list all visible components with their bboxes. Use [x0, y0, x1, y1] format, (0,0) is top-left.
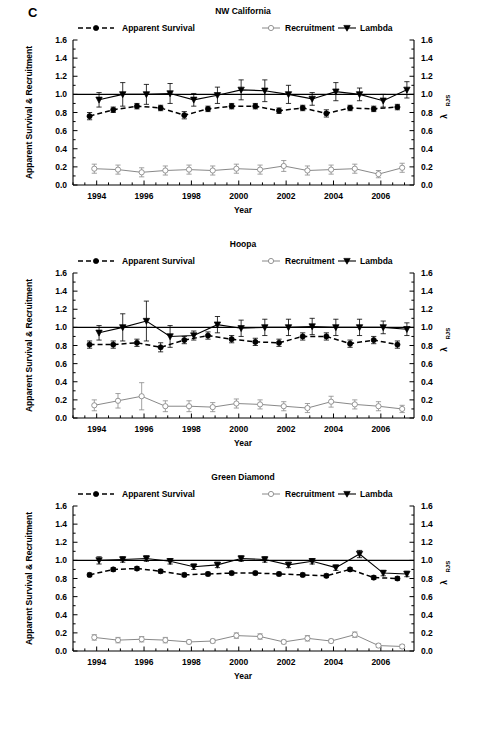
data-point — [182, 337, 187, 342]
x-tick-label: 2000 — [229, 424, 248, 434]
y-tick-label-left: 0.4 — [55, 610, 67, 620]
data-point — [87, 572, 92, 577]
y-tick-label-right: 0.8 — [421, 574, 433, 584]
data-point — [400, 406, 405, 411]
y-tick-label-left: 0.0 — [55, 413, 67, 423]
lambda-symbol: λ — [439, 347, 449, 352]
data-point — [300, 572, 305, 577]
data-point — [139, 170, 144, 175]
x-tick-label: 1998 — [182, 191, 201, 201]
data-point — [92, 403, 97, 408]
x-axis-title: Year — [234, 671, 253, 681]
y-tick-label-left: 1.4 — [55, 519, 67, 529]
data-point — [87, 342, 92, 347]
data-point — [186, 404, 191, 409]
y-tick-label-left: 0.8 — [55, 341, 67, 351]
y-tick-label-right: 1.4 — [421, 519, 433, 529]
data-point — [352, 166, 357, 171]
y-axis-title-left: Apparent Survival & Recruitment — [24, 279, 34, 412]
legend-label: Apparent Survival — [122, 23, 195, 33]
x-tick-label: 1996 — [135, 424, 154, 434]
x-tick-label: 2002 — [277, 191, 296, 201]
legend-label: Lambda — [360, 256, 393, 266]
data-point — [134, 566, 139, 571]
legend-item-filled-circle: Apparent Survival — [78, 23, 195, 33]
x-tick-label: 2004 — [324, 657, 343, 667]
data-point — [182, 113, 187, 118]
filled-circle-icon — [93, 25, 98, 30]
x-tick-label: 2002 — [277, 424, 296, 434]
data-point — [376, 404, 381, 409]
y-tick-label-left: 0.2 — [55, 628, 67, 638]
legend-item-filled-triangle-down: Lambda — [338, 489, 393, 499]
open-circle-icon — [268, 25, 273, 30]
y-tick-label-right: 1.2 — [421, 304, 433, 314]
data-point — [205, 571, 210, 576]
axes: 0.00.00.20.20.40.40.60.60.80.81.01.01.21… — [24, 268, 451, 448]
y-tick-label-left: 0.6 — [55, 359, 67, 369]
data-point — [281, 163, 286, 168]
series-lambda — [96, 80, 410, 107]
data-point — [115, 167, 120, 172]
y-tick-label-left: 1.6 — [55, 35, 67, 45]
open-circle-icon — [268, 491, 273, 496]
data-point — [352, 402, 357, 407]
data-point — [96, 97, 102, 103]
lambda-subscript: RJS — [445, 328, 451, 340]
data-point — [139, 394, 144, 399]
data-point — [158, 569, 163, 574]
data-point — [253, 339, 258, 344]
data-point — [139, 637, 144, 642]
data-point — [191, 97, 197, 103]
data-point — [300, 334, 305, 339]
data-point — [205, 333, 210, 338]
legend-item-filled-triangle-down: Lambda — [338, 256, 393, 266]
y-tick-label-right: 0.8 — [421, 341, 433, 351]
data-point — [229, 570, 234, 575]
data-point — [134, 104, 139, 109]
y-tick-label-left: 0.0 — [55, 646, 67, 656]
data-point — [92, 166, 97, 171]
y-tick-label-right: 0.0 — [421, 646, 433, 656]
legend-label: Recruitment — [285, 489, 335, 499]
series-recruitment — [92, 383, 405, 413]
y-axis-title-right: λRJS — [439, 95, 451, 119]
data-point — [276, 108, 281, 113]
y-tick-label-right: 0.4 — [421, 144, 433, 154]
panel-title: Green Diamond — [211, 472, 274, 482]
y-tick-label-right: 0.4 — [421, 377, 433, 387]
x-tick-label: 1996 — [135, 191, 154, 201]
data-point — [158, 105, 163, 110]
legend-label: Lambda — [360, 489, 393, 499]
legend-item-filled-triangle-down: Lambda — [338, 23, 393, 33]
data-point — [329, 638, 334, 643]
y-tick-label-left: 1.6 — [55, 501, 67, 511]
figure-container: NW CaliforniaCApparent SurvivalRecruitme… — [0, 0, 477, 734]
y-tick-label-right: 1.2 — [421, 537, 433, 547]
x-tick-label: 2004 — [324, 424, 343, 434]
data-point — [186, 167, 191, 172]
y-tick-label-right: 0.8 — [421, 108, 433, 118]
panel-title: NW California — [215, 6, 271, 16]
y-tick-label-right: 0.2 — [421, 628, 433, 638]
data-point — [400, 644, 405, 649]
legend-label: Recruitment — [285, 23, 335, 33]
x-tick-label: 1998 — [182, 424, 201, 434]
y-axis-title-right: λRJS — [439, 328, 451, 352]
data-point — [257, 402, 262, 407]
data-point — [395, 342, 400, 347]
panel-title: Hoopa — [230, 239, 257, 249]
y-tick-label-right: 0.6 — [421, 126, 433, 136]
data-point — [163, 404, 168, 409]
lambda-symbol: λ — [439, 114, 449, 119]
data-point — [281, 404, 286, 409]
data-point — [305, 405, 310, 410]
x-tick-label: 2006 — [371, 424, 390, 434]
series-apparent-survival — [87, 332, 400, 352]
data-point — [158, 345, 163, 350]
y-tick-label-right: 1.6 — [421, 501, 433, 511]
legend-label: Apparent Survival — [122, 489, 195, 499]
data-point — [257, 634, 262, 639]
data-point — [352, 632, 357, 637]
data-point — [253, 570, 258, 575]
